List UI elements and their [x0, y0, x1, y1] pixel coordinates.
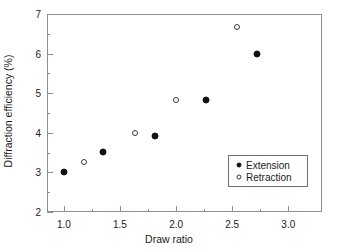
- y-tick-label: 3: [23, 167, 41, 178]
- y-tick-minor: [47, 34, 50, 35]
- y-tick-label: 4: [23, 127, 41, 138]
- data-point-extension: [60, 169, 67, 176]
- y-tick-label: 5: [23, 88, 41, 99]
- x-tick-label: 1.5: [113, 219, 127, 230]
- x-tick-major: [288, 206, 289, 212]
- data-point-retraction: [173, 97, 179, 103]
- y-tick-major: [47, 54, 53, 55]
- data-point-retraction: [81, 159, 87, 165]
- y-tick-minor: [47, 192, 50, 193]
- legend-item-retraction: Retraction: [234, 171, 303, 183]
- chart-legend: Extension Retraction: [228, 155, 308, 187]
- y-tick-label: 2: [23, 207, 41, 218]
- x-tick-major: [120, 206, 121, 212]
- filled-circle-icon: [234, 160, 244, 170]
- y-tick-major: [47, 14, 53, 15]
- legend-label-retraction: Retraction: [246, 172, 292, 183]
- x-tick-minor: [260, 209, 261, 212]
- data-point-extension: [203, 96, 210, 103]
- x-tick-label: 1.0: [57, 219, 71, 230]
- y-tick-major: [47, 212, 53, 213]
- y-tick-major: [47, 172, 53, 173]
- x-tick-label: 2.0: [169, 219, 183, 230]
- x-tick-label: 2.5: [225, 219, 239, 230]
- open-circle-icon: [234, 172, 244, 182]
- data-point-retraction: [132, 130, 138, 136]
- y-tick-minor: [47, 73, 50, 74]
- y-tick-label: 7: [23, 9, 41, 20]
- y-tick-label: 6: [23, 48, 41, 59]
- x-tick-label: 3.0: [281, 219, 295, 230]
- x-axis-title: Draw ratio: [0, 233, 338, 245]
- x-tick-minor: [204, 209, 205, 212]
- legend-label-extension: Extension: [246, 160, 290, 171]
- x-tick-major: [64, 206, 65, 212]
- x-tick-major: [232, 206, 233, 212]
- x-tick-major: [176, 206, 177, 212]
- scatter-chart-figure: 1.01.52.02.53.0 234567 Draw ratio Diffra…: [0, 0, 338, 251]
- legend-item-extension: Extension: [234, 159, 303, 171]
- x-tick-minor: [92, 209, 93, 212]
- data-point-retraction: [234, 24, 240, 30]
- y-tick-minor: [47, 153, 50, 154]
- data-point-extension: [151, 132, 158, 139]
- data-point-extension: [253, 50, 260, 57]
- y-tick-minor: [47, 113, 50, 114]
- y-axis-title: Diffraction efficiency (%): [2, 31, 14, 191]
- data-point-extension: [100, 149, 107, 156]
- y-tick-major: [47, 133, 53, 134]
- x-tick-minor: [148, 209, 149, 212]
- y-tick-major: [47, 93, 53, 94]
